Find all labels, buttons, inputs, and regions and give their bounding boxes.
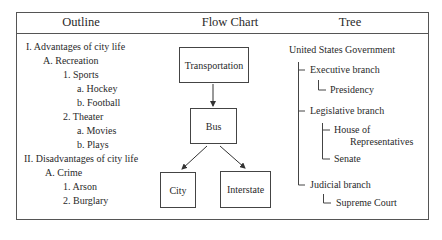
tree-node-judicial: Judicial branch bbox=[310, 179, 371, 191]
tree-root: United States Government bbox=[289, 44, 395, 56]
tree-node-presidency: Presidency bbox=[330, 84, 374, 96]
arrow-bus-interstate bbox=[220, 146, 245, 168]
tree-node-executive: Executive branch bbox=[310, 64, 380, 76]
tree-node-house-line1: House of bbox=[334, 124, 370, 136]
tree-node-supreme-court: Supreme Court bbox=[336, 197, 397, 209]
arrow-bus-city bbox=[182, 146, 207, 169]
tree-node-house-line2: Representatives bbox=[350, 136, 413, 148]
tree-node-legislative: Legislative branch bbox=[310, 105, 384, 117]
tree-node-senate: Senate bbox=[334, 153, 361, 165]
